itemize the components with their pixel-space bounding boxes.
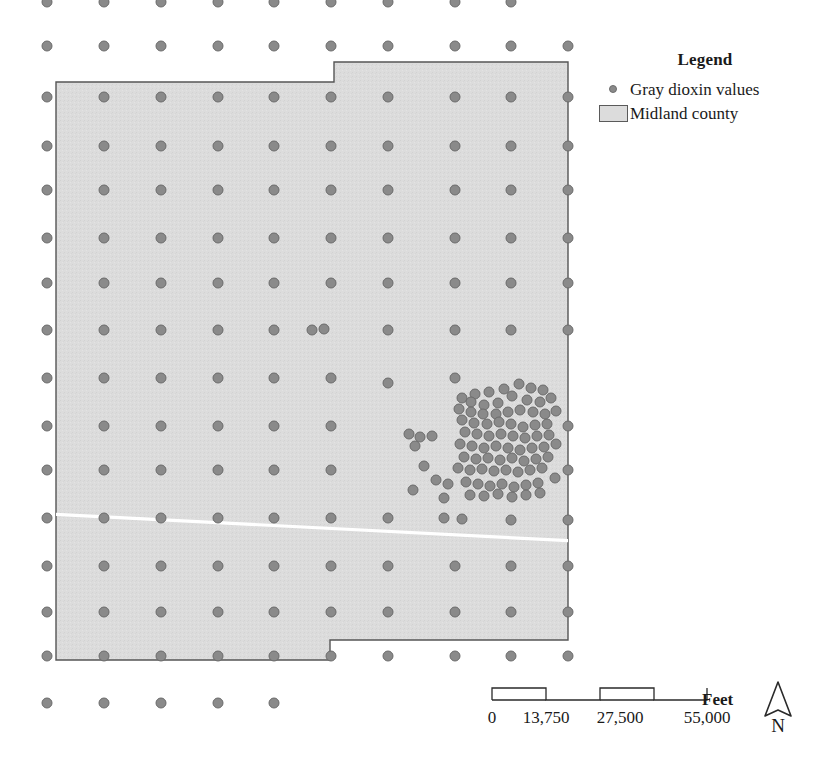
north-arrow-label: N [752,716,804,735]
legend-title: Legend [614,50,796,70]
scalebar-tick-1: 13,750 [523,708,570,728]
scalebar-units-label: Feet [702,690,733,710]
scalebar: Feet 0 13,750 27,500 55,000 [480,676,730,736]
legend-item-dioxin-values[interactable]: Gray dioxin values [596,79,796,99]
legend-item-label: Midland county [630,104,738,123]
scalebar-tick-3: 55,000 [684,708,731,728]
legend: Legend Gray dioxin values Midland county [596,50,796,127]
midland-county-polygon[interactable] [56,62,568,660]
dioxin-map-figure: Legend Gray dioxin values Midland county… [0,0,836,774]
point-marker-icon [596,85,630,93]
legend-item-label: Gray dioxin values [630,80,759,99]
scalebar-tick-2: 27,500 [597,708,644,728]
legend-item-midland-county[interactable]: Midland county [596,103,796,123]
north-arrow: N [752,678,804,748]
scalebar-tick-0: 0 [488,708,497,728]
polygon-swatch-icon [596,105,630,122]
